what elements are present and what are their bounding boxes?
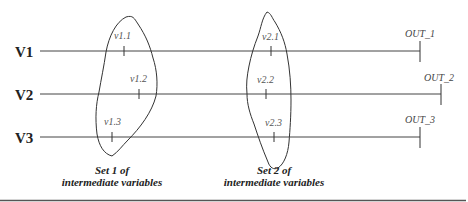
row-label-v1: V1: [15, 44, 33, 60]
row-v2: V2 OUT_2: [15, 72, 454, 105]
row-label-v3: V3: [15, 130, 33, 146]
var-label-v1-1: v1.1: [114, 30, 131, 41]
var-label-v2-2: v2.2: [257, 74, 274, 85]
variable-set-1: v1.1 v1.2 v1.3 Set 1 of intermediate var…: [62, 16, 163, 188]
row-label-v2: V2: [15, 87, 33, 103]
set-2-caption-line-2: intermediate variables: [224, 176, 325, 188]
set-1-caption-line-1: Set 1 of: [95, 164, 131, 176]
var-label-v2-3: v2.3: [265, 117, 282, 128]
var-label-v1-2: v1.2: [130, 73, 147, 84]
output-label-3: OUT_3: [405, 114, 435, 125]
intermediate-variables-diagram: V1 OUT_1 V2 OUT_2 V3 OUT_3 v1.1 v1.2 v1.…: [0, 0, 468, 202]
var-label-v2-1: v2.1: [262, 31, 279, 42]
output-label-2: OUT_2: [424, 72, 454, 83]
row-v1: V1 OUT_1: [15, 28, 435, 62]
variable-set-2: v2.1 v2.2 v2.3 Set 2 of intermediate var…: [224, 12, 325, 188]
set-2-caption-line-1: Set 2 of: [257, 164, 293, 176]
row-v3: V3 OUT_3: [15, 114, 435, 148]
set-1-caption-line-2: intermediate variables: [62, 176, 163, 188]
var-label-v1-3: v1.3: [104, 116, 121, 127]
output-label-1: OUT_1: [405, 28, 435, 39]
